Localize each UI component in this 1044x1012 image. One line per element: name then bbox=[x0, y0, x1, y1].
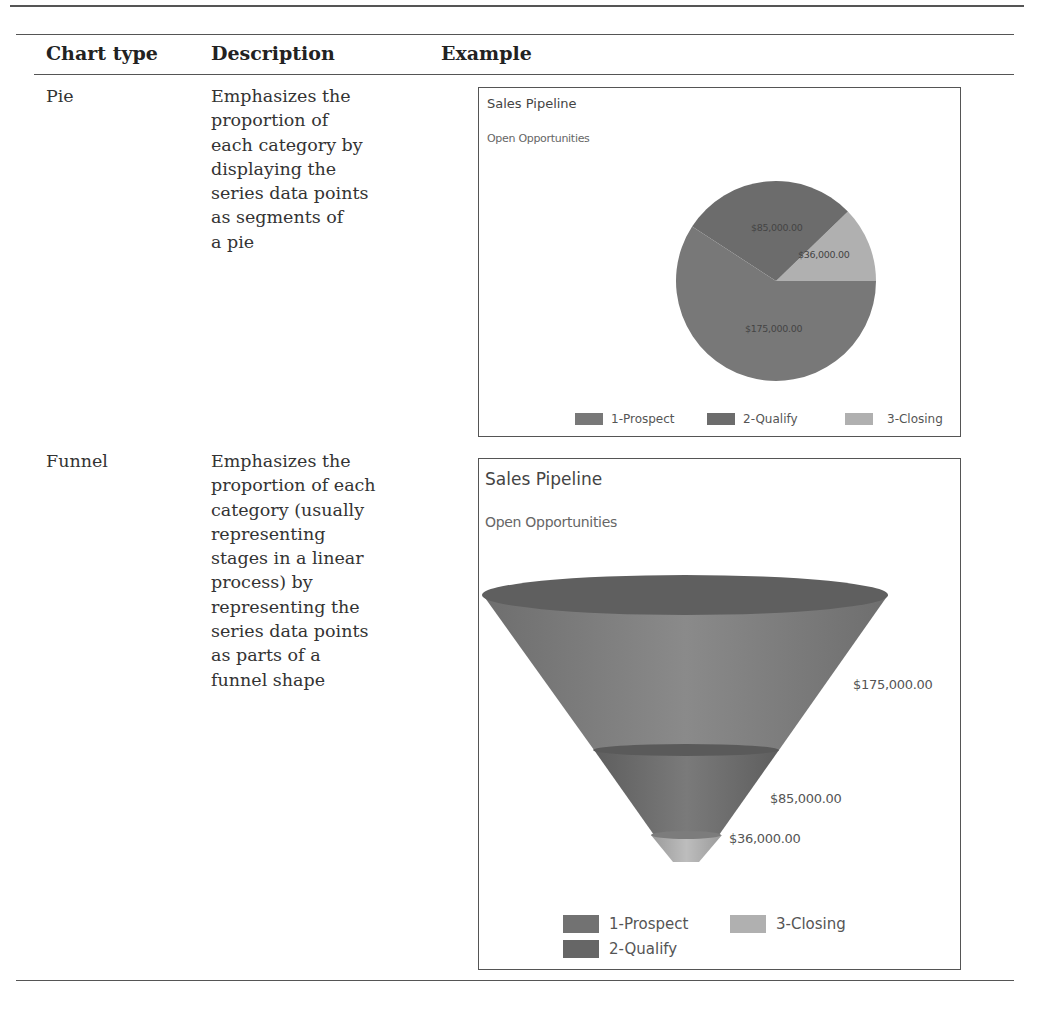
desc-line: category (usually bbox=[211, 498, 376, 522]
pie-chart-example: Sales Pipeline Open Opportunities $85,00… bbox=[478, 87, 961, 437]
desc-line: series data points bbox=[211, 181, 368, 205]
pie-legend-closing: 3-Closing bbox=[845, 412, 943, 426]
legend-label: 2-Qualify bbox=[743, 412, 798, 426]
header-bottom-rule bbox=[34, 74, 1014, 75]
funnel-legend-closing: 3-Closing bbox=[730, 915, 846, 933]
legend-swatch bbox=[575, 413, 603, 425]
funnel-segment-prospect bbox=[483, 595, 888, 750]
desc-line: series data points bbox=[211, 619, 376, 643]
pie-label-qualify: $85,000.00 bbox=[751, 222, 802, 233]
legend-label: 1-Prospect bbox=[609, 915, 688, 933]
pie-label-prospect: $175,000.00 bbox=[745, 323, 802, 334]
legend-label: 1-Prospect bbox=[611, 412, 675, 426]
desc-line: as parts of a bbox=[211, 643, 376, 667]
desc-line: representing bbox=[211, 522, 376, 546]
funnel-chart-graphic bbox=[479, 459, 962, 971]
desc-line: proportion of bbox=[211, 108, 368, 132]
funnel-label-closing: $36,000.00 bbox=[729, 831, 800, 846]
desc-line: representing the bbox=[211, 595, 376, 619]
pie-legend-qualify: 2-Qualify bbox=[707, 412, 798, 426]
funnel-top-rim bbox=[482, 575, 888, 615]
funnel-legend-qualify: 2-Qualify bbox=[563, 940, 677, 958]
legend-label: 3-Closing bbox=[887, 412, 943, 426]
row-pie-description: Emphasizes the proportion of each catego… bbox=[211, 84, 368, 254]
funnel-qualify-rim bbox=[593, 744, 779, 756]
desc-line: a pie bbox=[211, 230, 368, 254]
desc-line: funnel shape bbox=[211, 668, 376, 692]
funnel-label-qualify: $85,000.00 bbox=[770, 791, 841, 806]
funnel-segment-qualify bbox=[594, 750, 779, 835]
row-funnel-chart-type: Funnel bbox=[46, 449, 108, 473]
funnel-legend-prospect: 1-Prospect bbox=[563, 915, 688, 933]
funnel-label-prospect: $175,000.00 bbox=[853, 677, 932, 692]
row-pie-chart-type: Pie bbox=[46, 84, 74, 108]
page-header-rule bbox=[10, 5, 1024, 7]
funnel-closing-rim bbox=[651, 831, 721, 839]
legend-swatch bbox=[845, 413, 873, 425]
pie-legend-prospect: 1-Prospect bbox=[575, 412, 675, 426]
header-example: Example bbox=[441, 42, 532, 64]
legend-label: 2-Qualify bbox=[609, 940, 677, 958]
desc-line: each category by bbox=[211, 133, 368, 157]
legend-swatch bbox=[730, 915, 766, 933]
header-description: Description bbox=[211, 42, 335, 64]
desc-line: Emphasizes the bbox=[211, 449, 376, 473]
legend-swatch bbox=[707, 413, 735, 425]
pie-label-closing: $36,000.00 bbox=[798, 249, 849, 260]
table-top-rule bbox=[16, 34, 1014, 35]
funnel-chart-example: Sales Pipeline Open Opportunities bbox=[478, 458, 961, 970]
funnel-segment-closing bbox=[651, 835, 722, 862]
desc-line: displaying the bbox=[211, 157, 368, 181]
pie-chart-graphic bbox=[479, 88, 962, 438]
row-funnel-description: Emphasizes the proportion of each catego… bbox=[211, 449, 376, 692]
table-bottom-rule bbox=[16, 980, 1014, 981]
desc-line: proportion of each bbox=[211, 473, 376, 497]
desc-line: as segments of bbox=[211, 205, 368, 229]
desc-line: stages in a linear bbox=[211, 546, 376, 570]
header-chart-type: Chart type bbox=[46, 42, 158, 64]
legend-swatch bbox=[563, 915, 599, 933]
legend-label: 3-Closing bbox=[776, 915, 846, 933]
desc-line: Emphasizes the bbox=[211, 84, 368, 108]
legend-swatch bbox=[563, 940, 599, 958]
desc-line: process) by bbox=[211, 570, 376, 594]
